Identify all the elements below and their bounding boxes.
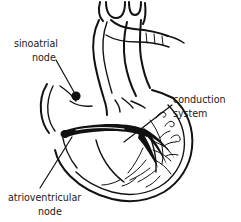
- atrial-fold: [70, 101, 92, 106]
- purkinje-branch-7: [128, 148, 143, 173]
- vessel-stub-left: [99, 2, 103, 21]
- sinoatrial-label-line1: sinoatrial: [14, 38, 58, 49]
- vein-stub-b: [122, 98, 133, 108]
- atrioventricular-leader-line: [40, 137, 72, 188]
- arch-tick-2: [154, 34, 155, 44]
- pulmonary-trunk-left: [124, 22, 136, 96]
- av-node-marker: [61, 130, 70, 138]
- ventricle-upper-right: [152, 90, 173, 98]
- purkinje-twig-b: [164, 142, 176, 146]
- ventricle-group: [55, 90, 192, 201]
- great-vessels-group: [99, 2, 146, 24]
- label-atrioventricular-node: atrioventricular node: [8, 192, 81, 217]
- atrioventricular-label-line1: atrioventricular: [8, 192, 81, 203]
- fiber-hook-2: [165, 121, 174, 126]
- atrioventricular-label-line2: node: [38, 206, 62, 217]
- vessel-arch-second: [129, 2, 141, 15]
- aortic-arch-lower: [106, 35, 169, 47]
- fiber-hook-3: [171, 135, 180, 142]
- conduction-label-line2: system: [173, 108, 207, 119]
- purkinje-twig-a: [160, 131, 170, 138]
- purkinje-twig-f: [102, 180, 120, 185]
- right-atrium-inner: [48, 86, 55, 131]
- purkinje-branch-3: [155, 160, 171, 174]
- sinoatrial-node-dot: [71, 91, 80, 100]
- purkinje-branch-5: [130, 168, 150, 180]
- purkinje-twig-d: [146, 176, 160, 187]
- conduction-bundle-band: [63, 124, 147, 138]
- leader-lines-group: [40, 60, 172, 188]
- sinoatrial-label-line2: node: [32, 52, 56, 63]
- heart-conduction-diagram: sinoatrial node conduction system atriov…: [0, 0, 241, 222]
- conduction-label-line1: conduction: [173, 94, 226, 105]
- arch-tick-3: [162, 36, 163, 45]
- vein-stub-c: [131, 101, 145, 108]
- arch-branch-right: [168, 36, 184, 43]
- ventricle-groove-left: [62, 134, 77, 168]
- purkinje-twig-c: [166, 154, 178, 156]
- aorta-left-inner: [103, 22, 112, 93]
- label-sinoatrial-node: sinoatrial node: [14, 38, 58, 63]
- vessel-arch-first: [106, 2, 125, 18]
- arch-tick-1: [146, 33, 147, 43]
- aorta-body-group: [93, 20, 184, 115]
- vessel-stub-right: [143, 3, 146, 24]
- purkinje-branch-4: [138, 170, 156, 182]
- septal-curve: [96, 140, 124, 182]
- sinoatrial-leader-line: [56, 60, 74, 92]
- vein-stub-a: [115, 100, 120, 112]
